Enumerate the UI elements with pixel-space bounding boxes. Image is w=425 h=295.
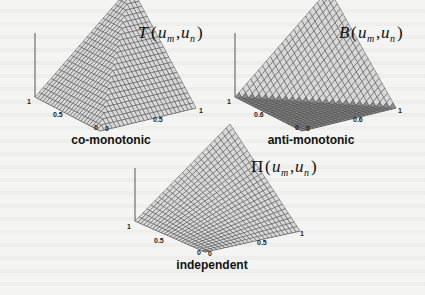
paren-open: (	[351, 23, 357, 42]
arg-sub-m: m	[167, 33, 174, 44]
tick-y-origin: 0	[208, 250, 212, 257]
arg-sub-m: m	[281, 167, 288, 178]
tick-y-mid: 0.5	[153, 116, 163, 123]
caption: anti-monotonic	[268, 133, 355, 147]
arg-u1: u	[158, 23, 167, 42]
tick-x-mid: 0.6	[254, 111, 264, 118]
function-symbol: B	[339, 23, 350, 42]
tick-x-mid: 0.5	[154, 237, 164, 244]
tick-z-top: 1	[127, 223, 131, 230]
tick-z-top: 1	[27, 98, 31, 105]
function-label: Π ( u m , u n )	[251, 157, 317, 178]
arg-sub-n: n	[390, 33, 395, 44]
arg-u2: u	[381, 23, 390, 42]
panel-comonotonic: 1 0.5 0 0 0.5 1 co-monotonic T ( u m , u…	[27, 0, 203, 147]
paren-open: (	[151, 23, 157, 42]
comma: ,	[176, 23, 180, 42]
tick-y-right: 1	[398, 107, 402, 114]
function-label: B ( u m , u n )	[339, 23, 403, 44]
comma: ,	[290, 157, 294, 176]
function-symbol: Π	[251, 157, 263, 176]
arg-sub-n: n	[304, 167, 309, 178]
tick-x-origin: 0	[94, 124, 98, 131]
comma: ,	[376, 23, 380, 42]
arg-sub-n: n	[190, 33, 195, 44]
tick-x-origin: 0	[295, 124, 299, 131]
paren-open: (	[265, 157, 271, 176]
tick-y-origin: 0	[306, 125, 310, 132]
copula-figure: 1 0.5 0 0 0.5 1 co-monotonic T ( u m , u…	[0, 0, 425, 295]
paren-close: )	[311, 157, 317, 176]
tick-y-origin: 0	[105, 125, 109, 132]
tick-z-top: 1	[227, 98, 231, 105]
arg-sub-m: m	[367, 33, 374, 44]
arg-u2: u	[295, 157, 304, 176]
caption: independent	[176, 258, 247, 272]
tick-x-origin: 0	[197, 249, 201, 256]
tick-y-mid: 0.5	[257, 239, 267, 246]
tick-y-right: 1	[300, 230, 304, 237]
arg-u2: u	[181, 23, 190, 42]
paren-close: )	[197, 23, 203, 42]
caption: co-monotonic	[71, 133, 151, 147]
tick-x-mid: 0.5	[53, 111, 63, 118]
arg-u1: u	[358, 23, 367, 42]
tick-y-right: 1	[199, 107, 203, 114]
function-symbol: T	[138, 23, 149, 42]
paren-close: )	[397, 23, 403, 42]
panel-antimonotonic: 1 0.6 0 0 0.6 1 anti-monotonic B ( u m ,…	[227, 0, 403, 147]
arg-u1: u	[272, 157, 281, 176]
tick-y-mid: 0.6	[353, 116, 363, 123]
